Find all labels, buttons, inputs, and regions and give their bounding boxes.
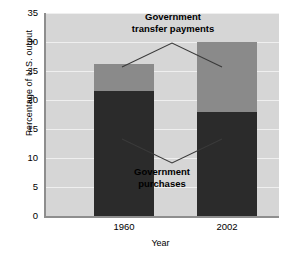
y-axis-tick-label: 0	[12, 210, 38, 221]
y-axis-tick-label: 20	[12, 94, 38, 105]
x-axis-title: Year	[44, 238, 277, 248]
y-axis-title: Percentage of U.S. output	[24, 0, 34, 168]
annotation-purchases-line2: purchases	[92, 178, 232, 190]
bar-segment-transfer-payments	[94, 64, 154, 91]
annotation-purchases: Government purchases	[92, 166, 232, 189]
bar-2002	[197, 42, 257, 216]
y-axis-tick-label: 5	[12, 181, 38, 192]
bar-segment-transfer-payments	[197, 42, 257, 112]
bar-1960	[94, 64, 154, 216]
y-axis-tick-label: 25	[12, 65, 38, 76]
bar-segment-purchases	[197, 112, 257, 216]
annotation-transfer-line2: transfer payments	[78, 23, 268, 35]
annotation-transfer-line1: Government	[78, 11, 268, 23]
x-axis-tick-label: 1960	[84, 221, 164, 232]
x-axis-tick-label: 2002	[187, 221, 267, 232]
annotation-transfer-payments: Government transfer payments	[78, 11, 268, 34]
y-axis-tick-label: 30	[12, 36, 38, 47]
y-axis-tick-label: 15	[12, 123, 38, 134]
y-axis-tick-label: 10	[12, 152, 38, 163]
bar-segment-purchases	[94, 91, 154, 216]
chart-figure: Percentage of U.S. output 05101520253035…	[0, 0, 281, 259]
annotation-purchases-line1: Government	[92, 166, 232, 178]
y-axis-tick-label: 35	[12, 7, 38, 18]
